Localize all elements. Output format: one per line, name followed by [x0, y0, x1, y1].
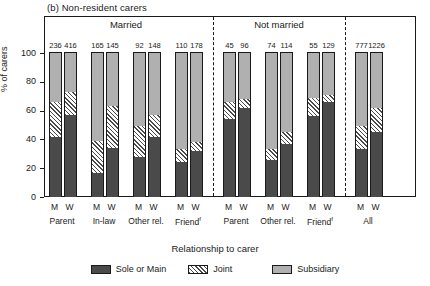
x-tick-label-w: W: [143, 202, 164, 212]
bar-count-label: 148: [148, 41, 161, 50]
bar-segment-subsidiary: [266, 53, 277, 149]
bar-segment-sole-or-main: [107, 148, 118, 197]
x-axis-title: Relationship to carer: [0, 243, 430, 254]
stacked-bar: 92: [133, 52, 146, 196]
bar-segment-subsidiary: [239, 53, 250, 99]
bar-segment-sole-or-main: [50, 137, 61, 197]
stacked-bar: 96: [238, 52, 251, 196]
legend-swatch-hatched: [188, 265, 208, 274]
stacked-bar: 45: [223, 52, 236, 196]
bar-segment-subsidiary: [50, 53, 61, 102]
y-tick-mark-0: [40, 197, 44, 198]
bar-segment-sole-or-main: [92, 173, 103, 197]
x-tick-label-w: W: [233, 202, 254, 212]
panel-title: (b) Non-resident carers: [47, 2, 147, 13]
bar-segment-joint: [134, 126, 145, 156]
bar-count-label: 74: [267, 41, 275, 50]
legend-label: Subsidiary: [297, 264, 339, 274]
bar-segment-subsidiary: [371, 53, 382, 108]
stacked-bar: 165: [91, 52, 104, 196]
bar-segment-sole-or-main: [65, 115, 76, 197]
y-tick-label-40: 40: [10, 135, 36, 144]
chart-legend: Sole or MainJointSubsidiary: [0, 264, 430, 274]
bar-count-label: 92: [135, 41, 143, 50]
bar-segment-sole-or-main: [266, 160, 277, 197]
bar-segment-subsidiary: [134, 53, 145, 126]
bar-segment-subsidiary: [308, 53, 319, 98]
bar-segment-sole-or-main: [281, 144, 292, 197]
footnote-marker: f: [331, 216, 333, 222]
bar-segment-joint: [266, 149, 277, 159]
stacked-bar: 129: [322, 52, 335, 196]
x-category-label: All: [340, 216, 396, 226]
bar-count-label: 114: [281, 41, 293, 50]
bar-segment-subsidiary: [191, 53, 202, 142]
bar-count-label: 236: [49, 41, 62, 50]
stacked-bar: 55: [307, 52, 320, 196]
x-tick-label-w: W: [185, 202, 206, 212]
y-tick-label-60: 60: [10, 106, 36, 115]
bar-segment-joint: [323, 95, 334, 102]
stacked-bar: 1226: [370, 52, 383, 196]
x-tick-label-w: W: [365, 202, 386, 212]
bar-segment-sole-or-main: [323, 102, 334, 197]
legend-item: Sole or Main: [91, 264, 167, 274]
bar-count-label: 96: [240, 41, 248, 50]
bar-count-label: 129: [322, 41, 335, 50]
bar-segment-sole-or-main: [149, 137, 160, 197]
bar-count-label: 110: [176, 41, 188, 50]
x-tick-label-w: W: [59, 202, 80, 212]
stacked-bar: 110: [175, 52, 188, 196]
bar-count-label: 178: [190, 41, 203, 50]
bar-segment-subsidiary: [149, 53, 160, 115]
bar-segment-sole-or-main: [239, 108, 250, 197]
legend-label: Joint: [213, 264, 232, 274]
y-axis-title: % of carers: [0, 0, 9, 92]
bar-segment-subsidiary: [323, 53, 334, 95]
legend-swatch-solid-dark: [91, 265, 111, 274]
bar-segment-sole-or-main: [356, 149, 367, 197]
bar-count-label: 55: [309, 41, 317, 50]
legend-swatch-solid-light: [272, 265, 292, 274]
group-header-label: Not married: [223, 19, 335, 30]
plot-area: 2364161651459214811017845967411455129777…: [44, 16, 416, 197]
stacked-bar: 148: [148, 52, 161, 196]
bar-segment-joint: [65, 92, 76, 115]
bar-segment-subsidiary: [356, 53, 367, 126]
bar-segment-joint: [107, 106, 118, 148]
bar-count-label: 416: [64, 41, 77, 50]
bar-segment-joint: [239, 99, 250, 108]
stacked-bar: 74: [265, 52, 278, 196]
bar-segment-subsidiary: [224, 53, 235, 102]
bar-count-label: 1226: [368, 41, 385, 50]
group-separator: [213, 17, 214, 196]
bar-segment-joint: [281, 132, 292, 144]
bar-count-label: 145: [106, 41, 119, 50]
bar-segment-subsidiary: [281, 53, 292, 132]
x-tick-label-w: W: [101, 202, 122, 212]
bar-segment-sole-or-main: [371, 132, 382, 197]
stacked-bar: 178: [190, 52, 203, 196]
bar-segment-joint: [308, 98, 319, 117]
stacked-bar: 416: [64, 52, 77, 196]
bar-segment-joint: [224, 102, 235, 119]
stacked-bar: 114: [280, 52, 293, 196]
y-tick-label-80: 80: [10, 77, 36, 86]
legend-label: Sole or Main: [116, 264, 167, 274]
legend-item: Joint: [188, 264, 232, 274]
bar-segment-subsidiary: [176, 53, 187, 149]
bar-segment-joint: [50, 102, 61, 137]
bar-segment-sole-or-main: [308, 116, 319, 197]
bar-count-label: 777: [355, 41, 368, 50]
bar-segment-subsidiary: [92, 53, 103, 141]
bar-segment-joint: [92, 141, 103, 173]
stacked-bar: 145: [106, 52, 119, 196]
bar-segment-sole-or-main: [134, 157, 145, 197]
bar-segment-sole-or-main: [191, 151, 202, 197]
y-tick-label-20: 20: [10, 164, 36, 173]
bar-segment-sole-or-main: [176, 162, 187, 197]
x-tick-label-w: W: [317, 202, 338, 212]
bar-segment-joint: [356, 126, 367, 149]
bar-count-label: 45: [225, 41, 233, 50]
y-tick-label-100: 100: [10, 49, 36, 58]
